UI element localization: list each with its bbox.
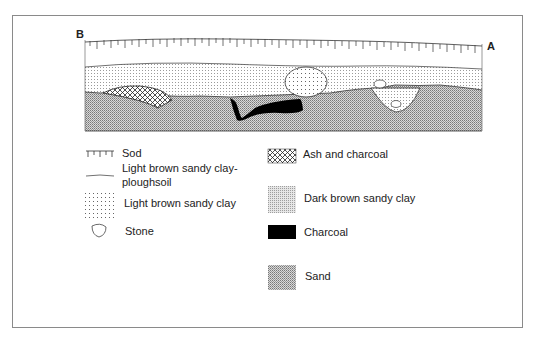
stone-large [285, 67, 327, 97]
legend-swatch-ploughsoil [86, 175, 114, 176]
legend-swatch-light-brown [82, 190, 116, 220]
legend-label-ash: Ash and charcoal [303, 148, 388, 161]
legend-label-ploughsoil-2: ploughsoil [122, 176, 172, 189]
legend-label-charcoal: Charcoal [304, 226, 348, 239]
ploughsoil-layer [85, 44, 482, 64]
section-drawing [0, 0, 536, 343]
stone-small-pit [391, 101, 401, 108]
legend-swatch-sand [268, 265, 296, 290]
legend-label-sod: Sod [122, 147, 142, 160]
legend-swatch-stone [92, 224, 106, 237]
legend-swatch-ash [268, 149, 296, 163]
legend-label-dark-brown: Dark brown sandy clay [304, 192, 415, 205]
legend-swatch-sod [86, 151, 114, 157]
section-label-a: A [487, 40, 495, 52]
legend-label-stone: Stone [125, 225, 154, 238]
legend-label-sand: Sand [305, 270, 331, 283]
legend-swatch-charcoal [268, 225, 296, 239]
stone-small-top [374, 80, 386, 88]
legend-label-ploughsoil-1: Light brown sandy clay- [122, 162, 238, 175]
legend-swatch-dark-brown [268, 186, 296, 213]
legend-label-light-brown: Light brown sandy clay [124, 197, 236, 210]
section-label-b: B [76, 28, 84, 40]
